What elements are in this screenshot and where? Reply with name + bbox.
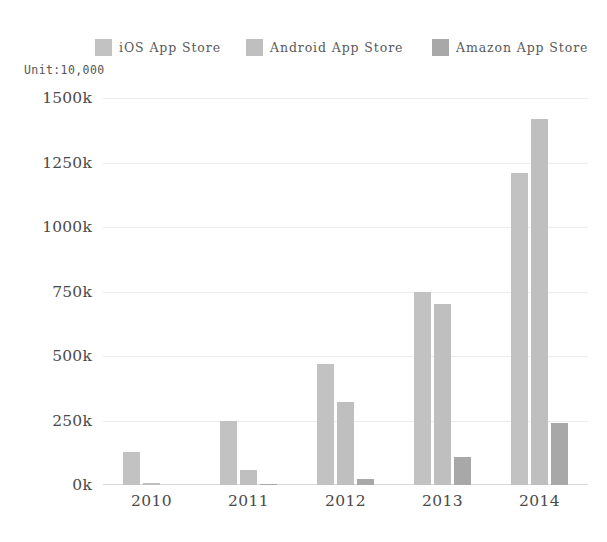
- bar-2011-android[interactable]: [240, 470, 257, 485]
- plot-area: [103, 98, 588, 485]
- bar-2011-ios[interactable]: [220, 421, 237, 486]
- bar-2012-ios[interactable]: [317, 364, 334, 485]
- bar-2013-android[interactable]: [434, 304, 451, 485]
- bar-group-2014: [511, 98, 568, 485]
- x-axis-tick-label: 2013: [422, 492, 463, 510]
- y-axis-tick-label: 250k: [52, 412, 92, 430]
- bar-2012-amazon[interactable]: [357, 479, 374, 485]
- legend-swatch-amazon-icon: [432, 39, 449, 56]
- legend-item-ios[interactable]: iOS App Store: [95, 36, 221, 58]
- bar-2014-android[interactable]: [531, 119, 548, 485]
- bar-group-2013: [414, 98, 471, 485]
- legend-label-ios: iOS App Store: [119, 40, 221, 55]
- bar-chart: iOS App Store Android App Store Amazon A…: [0, 0, 607, 542]
- y-axis-tick-label: 0k: [72, 476, 92, 494]
- bar-2013-amazon[interactable]: [454, 457, 471, 485]
- bar-group-2012: [317, 98, 374, 485]
- legend-swatch-ios-icon: [95, 39, 112, 56]
- y-axis-tick-label: 1000k: [42, 218, 92, 236]
- y-axis-tick-label: 1250k: [42, 154, 92, 172]
- y-axis-tick-label: 500k: [52, 347, 92, 365]
- legend-label-android: Android App Store: [270, 40, 403, 55]
- bar-2010-ios[interactable]: [123, 452, 140, 485]
- unit-note: Unit:10,000: [24, 63, 105, 77]
- legend-item-amazon[interactable]: Amazon App Store: [432, 36, 588, 58]
- y-axis-tick-label: 1500k: [42, 89, 92, 107]
- bar-2014-amazon[interactable]: [551, 423, 568, 485]
- legend-swatch-android-icon: [246, 39, 263, 56]
- x-axis-labels: 20102011201220132014: [103, 492, 588, 516]
- x-axis-tick-label: 2014: [519, 492, 560, 510]
- x-axis-tick-label: 2010: [131, 492, 172, 510]
- bar-2013-ios[interactable]: [414, 292, 431, 486]
- legend-label-amazon: Amazon App Store: [456, 40, 588, 55]
- x-axis-tick-label: 2012: [325, 492, 366, 510]
- bar-2014-ios[interactable]: [511, 173, 528, 485]
- chart-legend: iOS App Store Android App Store Amazon A…: [0, 36, 607, 58]
- bar-group-2010: [123, 98, 180, 485]
- bar-2011-amazon[interactable]: [260, 484, 277, 485]
- y-axis-tick-label: 750k: [52, 283, 92, 301]
- bar-2012-android[interactable]: [337, 402, 354, 485]
- y-axis-labels: 0k250k500k750k1000k1250k1500k: [10, 98, 92, 485]
- bar-group-2011: [220, 98, 277, 485]
- legend-item-android[interactable]: Android App Store: [246, 36, 403, 58]
- x-axis-tick-label: 2011: [228, 492, 269, 510]
- bar-2010-android[interactable]: [143, 483, 160, 485]
